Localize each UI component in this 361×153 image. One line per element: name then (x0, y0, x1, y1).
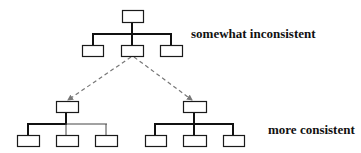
root-node-box (184, 102, 207, 113)
child-node-box-1 (146, 136, 167, 147)
child-node-box-3 (224, 136, 245, 147)
arrow-to-bottom-left-dashed-arrow (68, 57, 131, 100)
arrow-to-bottom-right-dashed-arrow (134, 57, 192, 100)
root-node-box (123, 11, 144, 23)
child-node-box-3 (161, 46, 183, 57)
child-node-box-2 (122, 46, 144, 57)
child-node-box-3 (96, 136, 118, 147)
child-node-box-1 (18, 136, 40, 147)
root-node-box (57, 102, 79, 113)
bottom-right-tree (146, 102, 245, 147)
label-somewhat-inconsistent: somewhat inconsistent (191, 27, 316, 40)
dashed-arrows (68, 57, 192, 100)
child-node-box-2 (57, 136, 79, 147)
child-node-box-1 (83, 46, 104, 57)
bottom-left-tree (18, 102, 118, 147)
diagram-canvas: somewhat inconsistent more consistent (0, 0, 361, 153)
child-node-box-2 (184, 136, 207, 147)
label-more-consistent: more consistent (268, 123, 355, 136)
top-tree (83, 11, 183, 57)
